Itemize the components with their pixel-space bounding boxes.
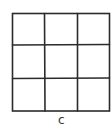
grid-vertical-line-1 xyxy=(45,14,46,112)
grid-outer-border xyxy=(13,14,110,112)
grid-diagram xyxy=(0,0,111,129)
grid-horizontal-line-2 xyxy=(13,78,110,79)
grid-label: c xyxy=(58,113,65,127)
grid-horizontal-line-1 xyxy=(13,45,110,46)
